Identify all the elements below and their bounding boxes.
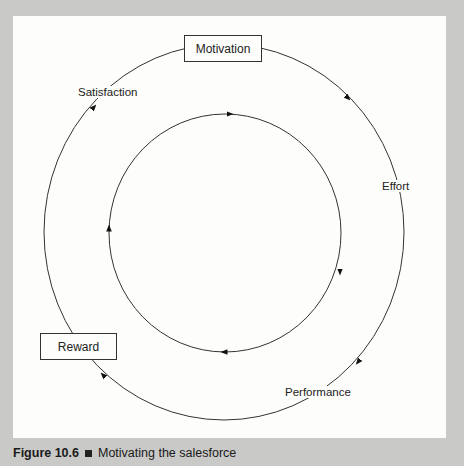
stage-performance-label: Performance	[284, 386, 352, 398]
arrow-icon	[86, 107, 94, 116]
outer-arrows	[86, 88, 366, 383]
arrow-icon	[338, 88, 348, 98]
inner-cycle-ring	[109, 114, 341, 352]
stage-motivation-box: Motivation	[184, 35, 262, 62]
stage-satisfaction-label: Satisfaction	[77, 86, 138, 98]
arrow-icon	[103, 375, 111, 383]
cycle-diagram	[0, 0, 464, 466]
figure-caption: Figure 10.6Motivating the salesforce	[13, 446, 236, 460]
inner-arrows	[109, 114, 340, 352]
outer-cycle-ring	[44, 44, 404, 420]
figure-title: Motivating the salesforce	[98, 446, 236, 460]
figure-number: Figure 10.6	[13, 446, 79, 460]
square-bullet-icon	[85, 450, 92, 457]
stage-reward-box: Reward	[40, 333, 117, 360]
stage-effort-label: Effort	[381, 180, 410, 192]
